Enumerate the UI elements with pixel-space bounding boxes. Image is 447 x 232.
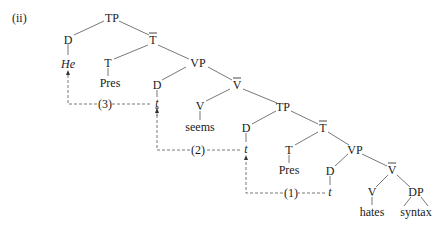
node-d-subj: D: [64, 33, 73, 47]
node-v-1: V: [196, 99, 205, 113]
node-vp-2: VP: [347, 143, 363, 157]
node-vbar-2: V: [388, 163, 397, 177]
node-tbar-1: T: [149, 33, 157, 47]
node-vbar-1: V: [233, 78, 242, 92]
edge-vp-d: [162, 67, 186, 80]
edge-vbar2-v: [376, 175, 388, 187]
syntax-tree: (ii): [0, 0, 447, 232]
node-tbar-2: T: [319, 121, 327, 135]
node-trace-1: t: [328, 185, 332, 199]
node-d-spec-vp2: D: [326, 164, 335, 178]
tree-edges: [68, 21, 428, 206]
node-t-2: T: [285, 143, 293, 157]
node-t-1: T: [104, 56, 112, 70]
movement-label-2: (2): [191, 143, 205, 157]
edge-tp-tbar: [119, 21, 149, 35]
movement-label-3: (3): [98, 97, 112, 111]
edge-tbar2-t: [295, 132, 318, 145]
node-pres-1: Pres: [100, 76, 121, 90]
edge-vbar-tp: [243, 89, 277, 103]
edge-vp2-d: [335, 154, 348, 166]
edge-vp2-vbar: [362, 154, 387, 166]
node-vp-1: VP: [190, 56, 206, 70]
edge-tp2-d: [252, 111, 276, 124]
node-d-spec-vp1: D: [153, 78, 162, 92]
edge-tbar2-vp: [328, 132, 349, 145]
edge-tbar-t: [114, 45, 148, 59]
edge-tbar-vp: [158, 45, 189, 59]
node-tp-root: TP: [105, 11, 119, 25]
node-he: He: [60, 57, 76, 71]
node-d-spec-tp2: D: [242, 121, 251, 135]
node-seems: seems: [185, 120, 215, 134]
edge-tp-d: [74, 21, 104, 35]
edge-vp-vbar: [208, 67, 232, 80]
node-v-2: V: [368, 185, 377, 199]
edge-vbar-v: [206, 89, 230, 101]
node-trace-2: t: [244, 142, 248, 156]
node-pres-2: Pres: [279, 163, 300, 177]
edge-tp2-tbar: [291, 111, 318, 124]
node-tp-2: TP: [276, 100, 290, 114]
movement-label-1: (1): [284, 186, 298, 200]
example-label: (ii): [12, 11, 27, 25]
node-hates: hates: [360, 205, 385, 219]
node-dp: DP: [408, 185, 424, 199]
node-syntax: syntax: [400, 205, 431, 219]
